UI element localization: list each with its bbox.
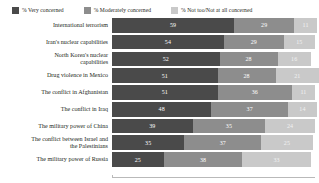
segment-value: 59 bbox=[170, 22, 176, 28]
bar-rows: International terrorism592911Iran's nucl… bbox=[0, 18, 319, 167]
plot-area: International terrorism592911Iran's nucl… bbox=[0, 18, 319, 178]
segment-value: 25 bbox=[284, 140, 290, 146]
segment-very-concerned: 51 bbox=[112, 68, 218, 83]
bar-row: The military power of China393524 bbox=[0, 119, 319, 134]
segment-value: 52 bbox=[163, 56, 169, 62]
segment-value: 21 bbox=[294, 73, 300, 79]
segment-moderately-concerned: 37 bbox=[211, 102, 288, 117]
bar-row-segments: 512821 bbox=[112, 68, 319, 83]
segment-not-concerned: 24 bbox=[265, 119, 315, 134]
bar-row: The military power of Russia253833 bbox=[0, 152, 319, 167]
segment-not-concerned: 11 bbox=[294, 18, 317, 33]
legend-item-not-concerned: % Not too/Not at all concerned bbox=[171, 7, 252, 14]
segment-not-concerned: 15 bbox=[284, 35, 315, 50]
segment-value: 28 bbox=[243, 73, 249, 79]
segment-moderately-concerned: 36 bbox=[218, 85, 293, 100]
segment-value: 25 bbox=[135, 157, 141, 163]
bar-row-label: North Korea's nuclearcapabilities bbox=[0, 52, 112, 65]
segment-moderately-concerned: 38 bbox=[164, 152, 243, 167]
legend-swatch-not-concerned bbox=[171, 7, 178, 14]
segment-very-concerned: 54 bbox=[112, 35, 224, 50]
segment-very-concerned: 35 bbox=[112, 135, 184, 150]
segment-value: 11 bbox=[303, 22, 309, 28]
bar-row: Drug violence in Mexico512821 bbox=[0, 68, 319, 83]
legend-item-very-concerned: % Very concerned bbox=[12, 7, 64, 14]
bar-row-label-line2: the Palestinians bbox=[0, 143, 108, 150]
bar-row-label-line1: The conflict in Afghanistan bbox=[41, 89, 108, 95]
legend-swatch-moderately-concerned bbox=[84, 7, 91, 14]
segment-value: 51 bbox=[162, 73, 168, 79]
bar-row-segments: 592911 bbox=[112, 18, 319, 33]
segment-not-concerned: 21 bbox=[276, 68, 319, 83]
bar-row: The conflict in Iraq483714 bbox=[0, 102, 319, 117]
segment-value: 24 bbox=[287, 123, 293, 129]
segment-value: 29 bbox=[251, 39, 257, 45]
segment-very-concerned: 48 bbox=[112, 102, 211, 117]
segment-value: 37 bbox=[220, 140, 226, 146]
segment-value: 16 bbox=[291, 56, 297, 62]
segment-not-concerned: 14 bbox=[288, 102, 317, 117]
stacked-bar-chart: % Very concerned % Moderately concerned … bbox=[0, 0, 319, 183]
bar-row-segments: 393524 bbox=[112, 119, 319, 134]
legend-label-very-concerned: % Very concerned bbox=[22, 7, 64, 14]
segment-value: 51 bbox=[162, 89, 168, 95]
bar-row-label: The conflict in Afghanistan bbox=[0, 89, 112, 96]
legend-label-moderately-concerned: % Moderately concerned bbox=[94, 7, 151, 14]
bar-row: The conflict between Israel andthe Pales… bbox=[0, 135, 319, 150]
segment-moderately-concerned: 37 bbox=[184, 135, 261, 150]
bar-row-segments: 253833 bbox=[112, 152, 319, 167]
segment-not-concerned: 25 bbox=[261, 135, 313, 150]
segment-value: 35 bbox=[226, 123, 232, 129]
segment-not-concerned: 11 bbox=[292, 85, 315, 100]
segment-very-concerned: 52 bbox=[112, 52, 220, 67]
bar-row-label: International terrorism bbox=[0, 22, 112, 29]
segment-value: 54 bbox=[165, 39, 171, 45]
chart-legend: % Very concerned % Moderately concerned … bbox=[0, 0, 319, 16]
segment-value: 39 bbox=[149, 123, 155, 129]
bar-row: Iran's nuclear capabilities542915 bbox=[0, 35, 319, 50]
segment-value: 35 bbox=[145, 140, 151, 146]
bar-row-label: The conflict between Israel andthe Pales… bbox=[0, 136, 112, 149]
bar-row-label-line1: The military power of China bbox=[38, 123, 108, 129]
segment-very-concerned: 59 bbox=[112, 18, 234, 33]
bar-row-segments: 513611 bbox=[112, 85, 319, 100]
bar-row-label: The conflict in Iraq bbox=[0, 106, 112, 113]
segment-very-concerned: 51 bbox=[112, 85, 218, 100]
segment-moderately-concerned: 29 bbox=[224, 35, 284, 50]
bar-row-label-line1: Drug violence in Mexico bbox=[47, 72, 108, 78]
segment-very-concerned: 39 bbox=[112, 119, 193, 134]
segment-value: 14 bbox=[299, 106, 305, 112]
bar-row-label: Drug violence in Mexico bbox=[0, 72, 112, 79]
segment-value: 11 bbox=[300, 89, 306, 95]
bar-row-label-line1: International terrorism bbox=[53, 22, 108, 28]
bar-row-label-line2: capabilities bbox=[0, 59, 108, 66]
segment-moderately-concerned: 28 bbox=[218, 68, 276, 83]
bar-row-label-line1: The military power of Russia bbox=[37, 156, 108, 162]
bar-row-label: The military power of China bbox=[0, 123, 112, 130]
segment-value: 15 bbox=[296, 39, 302, 45]
legend-item-moderately-concerned: % Moderately concerned bbox=[84, 7, 151, 14]
bar-row-label: The military power of Russia bbox=[0, 156, 112, 163]
segment-moderately-concerned: 35 bbox=[193, 119, 265, 134]
segment-not-concerned: 16 bbox=[278, 52, 311, 67]
bar-row-label-line1: North Korea's nuclear bbox=[54, 52, 108, 58]
segment-moderately-concerned: 28 bbox=[220, 52, 278, 67]
bar-row: International terrorism592911 bbox=[0, 18, 319, 33]
bar-row-label-line1: The conflict between Israel and bbox=[31, 136, 108, 142]
segment-value: 29 bbox=[261, 22, 267, 28]
bar-row-segments: 353725 bbox=[112, 135, 319, 150]
bar-row-label-line1: The conflict in Iraq bbox=[61, 106, 108, 112]
segment-value: 37 bbox=[247, 106, 253, 112]
bar-row-label-line1: Iran's nuclear capabilities bbox=[46, 39, 108, 45]
bar-row-segments: 542915 bbox=[112, 35, 319, 50]
segment-moderately-concerned: 29 bbox=[234, 18, 294, 33]
segment-not-concerned: 33 bbox=[242, 152, 310, 167]
segment-value: 36 bbox=[252, 89, 258, 95]
segment-value: 38 bbox=[200, 157, 206, 163]
x-axis-line bbox=[112, 177, 315, 178]
bar-row: North Korea's nuclearcapabilities522816 bbox=[0, 52, 319, 67]
bar-row-segments: 483714 bbox=[112, 102, 319, 117]
bar-row-segments: 522816 bbox=[112, 52, 319, 67]
bar-row-label: Iran's nuclear capabilities bbox=[0, 39, 112, 46]
segment-value: 48 bbox=[159, 106, 165, 112]
